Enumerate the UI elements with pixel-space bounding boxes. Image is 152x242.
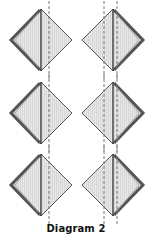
quilt-square-diagram xyxy=(0,0,152,242)
diagram-caption: Diagram 2 xyxy=(0,223,152,234)
